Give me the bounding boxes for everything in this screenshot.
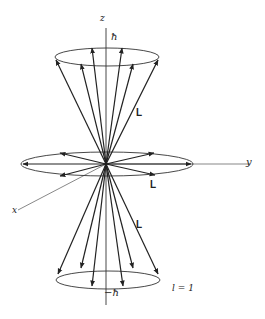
- diagram-svg: [0, 0, 265, 319]
- quantum-number-label: l = 1: [172, 284, 194, 293]
- z-axis-label: z: [100, 14, 105, 23]
- angular-momentum-diagram: z y x ħ −ħ L L L l = 1: [0, 0, 265, 319]
- vector-L-label-top: L: [136, 108, 142, 118]
- bottom-cone-vectors: [58, 164, 158, 286]
- vector-L-label-bottom: L: [136, 220, 142, 230]
- top-cone-ellipse: [55, 48, 159, 66]
- y-axis-label: y: [246, 157, 252, 167]
- vector-L-label-middle: L: [150, 180, 156, 190]
- x-axis: [18, 164, 106, 210]
- top-cone-vectors: [56, 48, 158, 164]
- hbar-label: ħ: [111, 32, 117, 42]
- x-axis-label: x: [12, 206, 17, 215]
- minus-hbar-label: −ħ: [104, 288, 119, 298]
